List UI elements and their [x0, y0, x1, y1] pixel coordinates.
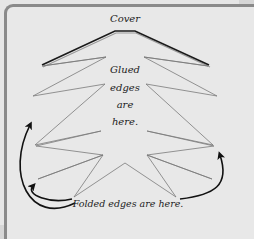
zigzag-pages-left [33, 57, 125, 197]
folded-label: Folded edges are here. [72, 198, 184, 209]
cover-shadow [43, 33, 210, 67]
book-fold-diagram: Cover Glued edges are here. Folded edges… [0, 0, 239, 225]
diagram-frame: Cover Glued edges are here. Folded edges… [0, 0, 239, 225]
glued-label-line-2: edges [110, 82, 140, 93]
cover-label: Cover [110, 13, 141, 24]
glued-label-line-1: Glued [110, 64, 140, 75]
glued-label-line-3: are [117, 99, 134, 110]
arrow-inner-left [31, 186, 72, 200]
zigzag-pages-right [125, 57, 217, 197]
cover-line [42, 31, 209, 65]
glued-label-line-4: here. [112, 116, 138, 127]
arrow-right [180, 155, 223, 199]
arrow-outer-left [20, 125, 75, 208]
